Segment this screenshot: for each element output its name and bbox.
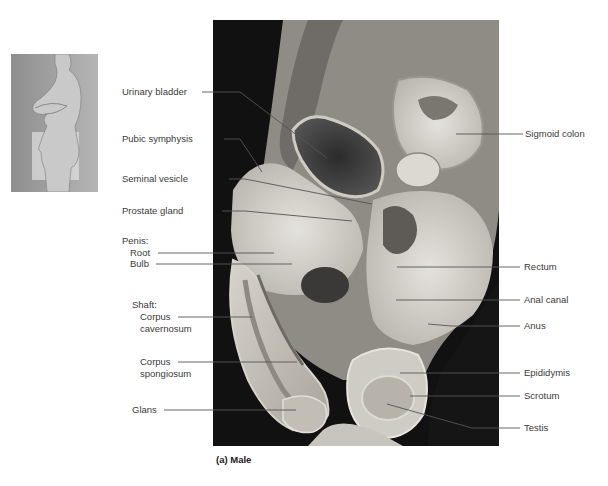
label-shaft-heading: Shaft: (132, 299, 157, 311)
label-corpus-spongiosum-line1: Corpus (140, 356, 171, 368)
testis-region (362, 376, 414, 420)
glans-region (283, 396, 327, 433)
label-anus: Anus (524, 320, 546, 332)
label-corpus-spongiosum-line2: spongiosum (140, 368, 191, 380)
label-prostate-gland: Prostate gland (122, 205, 183, 217)
figure-caption: (a) Male (216, 454, 251, 465)
bulb-region (301, 267, 349, 303)
label-corpus-cavernosum-line1: Corpus (140, 311, 171, 323)
label-penis-heading: Penis: (122, 235, 148, 247)
label-pubic-symphysis: Pubic symphysis (122, 133, 193, 145)
label-seminal-vesicle: Seminal vesicle (122, 173, 188, 185)
label-scrotum: Scrotum (524, 390, 559, 402)
dissection-photo (213, 20, 499, 446)
label-bulb: Bulb (130, 258, 149, 270)
label-glans: Glans (132, 404, 157, 416)
orientation-thumbnail (11, 54, 98, 192)
label-epididymis: Epididymis (524, 367, 570, 379)
label-corpus-cavernosum-line2: cavernosum (140, 323, 192, 335)
label-testis: Testis (524, 422, 548, 434)
label-urinary-bladder: Urinary bladder (122, 86, 187, 98)
label-sigmoid-colon: Sigmoid colon (525, 128, 585, 140)
label-anal-canal: Anal canal (524, 294, 568, 306)
label-rectum: Rectum (524, 261, 557, 273)
